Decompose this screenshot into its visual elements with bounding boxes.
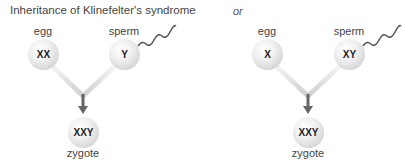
sperm-path-left [83,66,115,96]
egg-path-left [52,66,83,96]
sperm-cell: Y [109,39,140,70]
sperm-label: sperm [319,25,379,37]
zygote-label: zygote [53,147,113,159]
sperm-label: sperm [94,25,154,37]
arrow-icon [303,106,313,114]
arrow-icon [78,106,88,114]
separator-or: or [233,5,243,17]
egg-cell: XX [28,39,59,70]
sperm-cell: XY [334,39,365,70]
diagram-title: Inheritance of Klinefelter's syndrome [10,4,196,16]
zygote-cell: XXY [68,117,99,148]
egg-label: egg [237,25,297,37]
egg-label: egg [13,25,73,37]
zygote-label: zygote [278,147,338,159]
egg-cell: X [252,39,283,70]
zygote-cell: XXY [293,117,324,148]
